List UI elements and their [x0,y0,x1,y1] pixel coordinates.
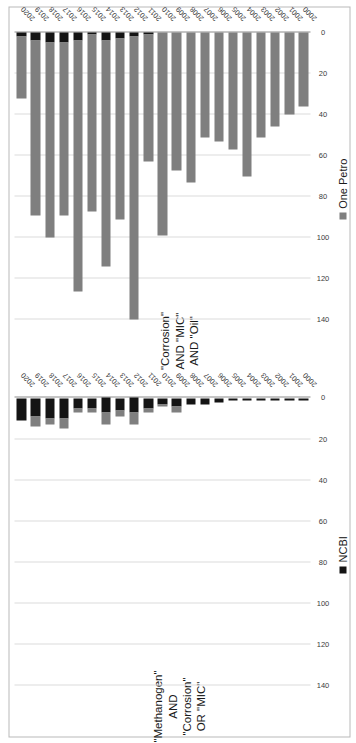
panel-methanogen-tick-label-20: 20 [314,434,332,443]
panel-methanogen-category-label-2001: 2001 [286,370,304,388]
panel-corrosion-category-label-2011: 2011 [145,5,162,22]
panel-methanogen-bar-2006 [214,398,223,686]
panel-methanogen-bar-2011-ncbi [143,398,152,408]
panel-corrosion-tick-label-60: 60 [314,151,332,160]
panel-methanogen-category-label-2020: 2020 [18,370,36,388]
panel-corrosion-bar-2007-one-petro [200,32,209,137]
panel-methanogen-tick-label-40: 40 [314,475,332,484]
legend-label-one-petro: One Petro [336,158,348,208]
panel-methanogen-category-label-2006: 2006 [216,370,234,388]
panel-methanogen-bar-2005-ncbi [228,398,237,400]
panel-methanogen-bar-2014 [101,398,110,686]
panel-corrosion-bar-2003-one-petro [256,32,265,137]
panel-corrosion-bar-2014-ncbi [101,32,110,40]
panel-corrosion-bar-2020 [16,32,25,320]
panel-methanogen-bar-2011-one-petro [143,408,152,412]
panel-methanogen-bars [14,398,310,686]
panel-methanogen-bar-2012 [129,398,138,686]
panel-methanogen-bar-2020 [16,398,25,686]
panel-methanogen-category-label-2009: 2009 [173,370,191,388]
panel-corrosion-bar-2008 [186,32,195,320]
panel-methanogen-category-label-2003: 2003 [258,370,276,388]
panel-methanogen-category-label-2019: 2019 [32,370,50,388]
panel-corrosion-bar-2018-one-petro [45,42,54,237]
panel-methanogen-bar-2000 [298,398,307,686]
panel-corrosion-bar-2006-one-petro [214,32,223,141]
panel-methanogen-bar-2012-ncbi [129,398,138,412]
panel-methanogen-bar-2009 [171,398,180,686]
panel-corrosion-category-label-2009: 2009 [173,5,191,23]
panel-corrosion-category-label-2007: 2007 [202,5,220,23]
panel-corrosion-bar-2020-ncbi [16,32,25,36]
panel-corrosion-category-label-2005: 2005 [230,5,248,23]
panel-corrosion-bar-2016 [73,32,82,320]
panel-methanogen-category-label-2000: 2000 [300,370,318,388]
panel-corrosion-plot [14,32,310,320]
panel-methanogen-bar-2017 [59,398,68,686]
panel-corrosion: "Corrosion" AND "MIC" AND "Oil" 20002001… [8,6,350,372]
panel-methanogen-bar-2011 [143,398,152,686]
panel-container: "Methanogen" AND "Corrosion" OR "MIC" 20… [8,6,350,737]
panel-corrosion-bar-2004 [242,32,251,320]
panel-corrosion-bar-2013-ncbi [115,32,124,38]
panel-methanogen-bar-2010 [157,398,166,686]
panel-corrosion-bar-2019-one-petro [30,40,39,215]
panel-methanogen-bar-2002-ncbi [270,398,279,400]
panel-corrosion-legend: One Petro [336,6,348,372]
panel-methanogen-bar-2015-one-petro [87,408,96,412]
panel-corrosion-title: "Corrosion" AND "MIC" AND "Oil" [8,324,350,358]
panel-methanogen-bar-2003 [256,398,265,686]
panel-methanogen-category-label-2011: 2011 [145,370,162,387]
panel-corrosion-category-label-2019: 2019 [32,5,50,23]
panel-corrosion-bar-2012-ncbi [129,32,138,36]
panel-methanogen-tick-label-140: 140 [314,681,332,690]
panel-corrosion-bar-2015-one-petro [87,34,96,211]
panel-corrosion-bar-2016-ncbi [73,32,82,40]
panel-corrosion-category-label-2010: 2010 [159,5,177,23]
panel-methanogen-bar-2013 [115,398,124,686]
panel-methanogen-category-label-2018: 2018 [47,370,65,388]
panel-methanogen-category-label-2013: 2013 [117,370,135,388]
panel-methanogen-bar-2016 [73,398,82,686]
figure-canvas: "Methanogen" AND "Corrosion" OR "MIC" 20… [0,0,356,743]
panel-corrosion-bar-2003 [256,32,265,320]
panel-methanogen-title: "Methanogen" AND "Corrosion" OR "MIC" [8,689,350,723]
panel-methanogen: "Methanogen" AND "Corrosion" OR "MIC" 20… [8,372,350,738]
panel-corrosion-bar-2015 [87,32,96,320]
panel-corrosion-category-label-2015: 2015 [89,5,107,23]
panel-corrosion-category-label-2016: 2016 [75,5,93,23]
panel-corrosion-bar-2001 [284,32,293,320]
panel-corrosion-tick-label-120: 120 [314,274,332,283]
panel-corrosion-bar-2017-one-petro [59,42,68,215]
panel-corrosion-bar-2012 [129,32,138,320]
panel-methanogen-tick-label-60: 60 [314,516,332,525]
panel-corrosion-bar-2014-one-petro [101,40,110,266]
panel-methanogen-bar-2009-ncbi [171,398,180,406]
panel-corrosion-bar-2006 [214,32,223,320]
panel-corrosion-tick-label-20: 20 [314,69,332,78]
panel-methanogen-bar-2004 [242,398,251,686]
panel-corrosion-category-label-2020: 2020 [18,5,36,23]
panel-methanogen-category-label-2014: 2014 [103,370,121,388]
panel-methanogen-category-label-2008: 2008 [188,370,206,388]
panel-methanogen-bar-2003-ncbi [256,398,265,400]
panel-methanogen-tick-label-80: 80 [314,557,332,566]
panel-methanogen-bar-2015-ncbi [87,398,96,408]
panel-methanogen-legend: NCBI [336,372,348,738]
panel-corrosion-category-label-2018: 2018 [47,5,65,23]
panel-corrosion-tick-label-140: 140 [314,315,332,324]
panel-methanogen-bar-2019-one-petro [30,416,39,426]
panel-methanogen-bar-2018-ncbi [45,398,54,419]
panel-methanogen-category-label-2005: 2005 [230,370,248,388]
panel-methanogen-bar-2005 [228,398,237,686]
panel-methanogen-bar-2006-ncbi [214,398,223,402]
panel-methanogen-bar-2010-one-petro [157,404,166,406]
panel-corrosion-category-label-2004: 2004 [244,5,262,23]
panel-methanogen-bar-2001-ncbi [284,398,293,400]
panel-corrosion-bar-2005 [228,32,237,320]
panel-methanogen-bar-2016-ncbi [73,398,82,408]
panel-methanogen-bar-2019-ncbi [30,398,39,416]
panel-corrosion-bar-2011 [143,32,152,320]
panel-corrosion-bar-2009 [171,32,180,320]
panel-corrosion-bar-2016-one-petro [73,40,82,291]
